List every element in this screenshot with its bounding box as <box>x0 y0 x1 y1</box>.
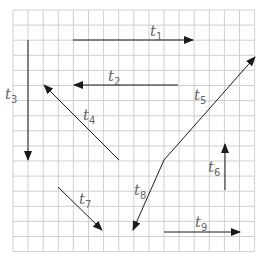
label-t3: t3 <box>5 85 17 105</box>
diagram-canvas: t1t2t3t4t5t6t7t8t9 <box>0 0 269 258</box>
arrow-t4 <box>44 85 119 160</box>
vector-t6: t6 <box>208 144 225 190</box>
vector-t7: t7 <box>58 187 102 230</box>
grid <box>13 10 255 252</box>
label-t8: t8 <box>134 181 146 201</box>
vector-t3: t3 <box>5 40 28 160</box>
label-t7: t7 <box>79 190 91 210</box>
vectors: t1t2t3t4t5t6t7t8t9 <box>5 22 255 233</box>
label-t9: t9 <box>195 213 207 233</box>
vector-grid-diagram: t1t2t3t4t5t6t7t8t9 <box>0 0 269 258</box>
label-t4: t4 <box>83 106 95 126</box>
vector-t4: t4 <box>44 85 119 160</box>
vector-t9: t9 <box>164 213 240 233</box>
label-t5: t5 <box>194 86 206 106</box>
